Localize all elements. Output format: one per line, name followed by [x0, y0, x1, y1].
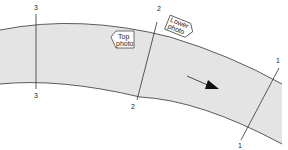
channel-diagram: 3 3 2 2 1 1 Top photo Lower photo [0, 0, 288, 150]
section-3-bottom-label: 3 [34, 92, 38, 99]
lower-photo-callout: Lower photo [165, 15, 196, 39]
section-2-top-label: 2 [157, 5, 161, 12]
section-2-bottom-label: 2 [131, 103, 135, 110]
section-3-top-label: 3 [34, 4, 38, 11]
section-1-bottom-label: 1 [238, 142, 242, 149]
section-1-top-label: 1 [276, 57, 280, 64]
top-photo-line2: photo [116, 40, 134, 48]
